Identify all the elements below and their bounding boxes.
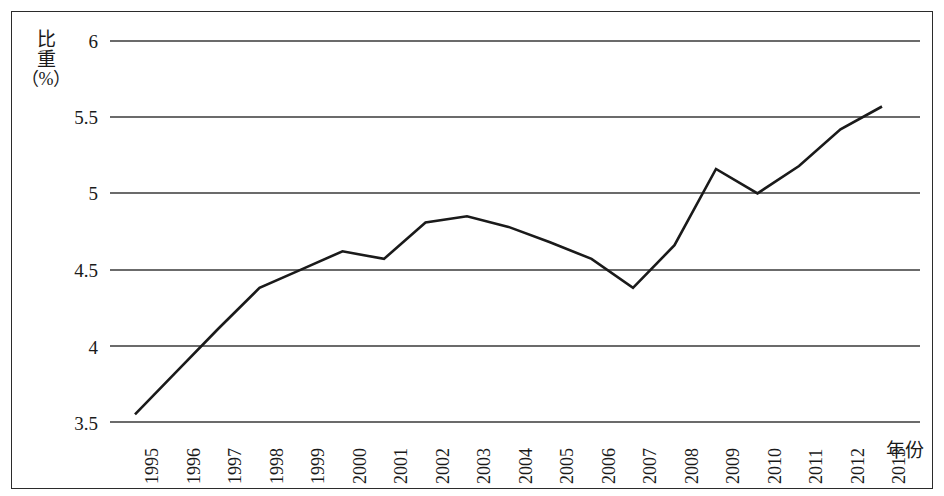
x-tick-label-2007: 2007: [641, 448, 659, 484]
x-tick-label-1997: 1997: [226, 448, 244, 484]
x-axis-title: 年份: [886, 441, 924, 460]
x-tick-label-2000: 2000: [351, 448, 369, 484]
x-tick-label-2001: 2001: [392, 448, 410, 484]
x-tick-label-2009: 2009: [724, 448, 742, 484]
plot-area: [0, 0, 944, 496]
x-tick-label-1995: 1995: [143, 448, 161, 484]
x-tick-label-1996: 1996: [185, 448, 203, 484]
x-tick-label-1999: 1999: [309, 448, 327, 484]
x-tick-label-2004: 2004: [517, 448, 535, 484]
x-tick-label-2011: 2011: [807, 449, 825, 484]
x-tick-label-2002: 2002: [434, 448, 452, 484]
x-tick-label-2010: 2010: [766, 448, 784, 484]
gridlines: [110, 41, 920, 422]
x-tick-label-2012: 2012: [849, 448, 867, 484]
x-tick-label-2005: 2005: [558, 448, 576, 484]
x-tick-label-2008: 2008: [683, 448, 701, 484]
chart-figure: 比 重 （%） 6 5.5 5 4.5 4 3.5 19951996199719…: [0, 0, 944, 496]
data-series-line: [135, 107, 882, 415]
x-tick-label-1998: 1998: [268, 448, 286, 484]
x-tick-label-2003: 2003: [475, 448, 493, 484]
x-tick-label-2006: 2006: [600, 448, 618, 484]
